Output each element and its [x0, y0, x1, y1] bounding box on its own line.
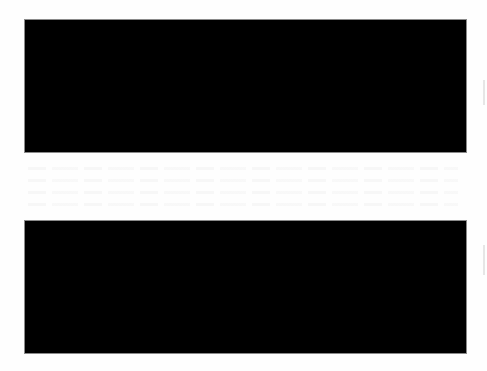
redaction-block-top [25, 20, 466, 152]
scan-edge-mark [483, 80, 485, 105]
scanned-document-page [0, 0, 487, 371]
redaction-block-bottom [25, 221, 466, 353]
illegible-bleedthrough-text [28, 158, 458, 216]
scan-edge-mark [483, 245, 485, 275]
ghost-line [28, 167, 458, 170]
ghost-line [28, 191, 458, 194]
ghost-line [28, 203, 458, 206]
ghost-line [28, 179, 458, 182]
